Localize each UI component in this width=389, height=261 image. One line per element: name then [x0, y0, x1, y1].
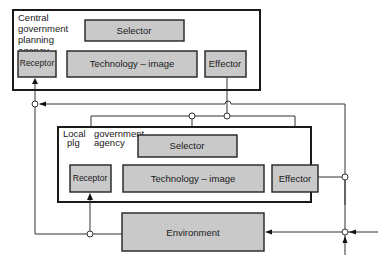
upper-feedback-line [40, 101, 345, 104]
arrow-left-icon [349, 230, 356, 235]
junction-node [32, 101, 38, 107]
local-agency-label-4: agency [94, 137, 125, 148]
local-agency-label-2: plg [67, 137, 80, 148]
central-technology-image-label: Technology – image [90, 58, 175, 69]
central-agency-label-3: planning [18, 34, 54, 45]
central-agency-label-2: government [18, 23, 69, 34]
central-effector-label: Effector [209, 58, 242, 69]
local-effector-label: Effector [279, 173, 312, 184]
systems-diagram: Central government planning agency Selec… [0, 0, 389, 261]
arrow-up-icon [343, 236, 348, 243]
junction-node [342, 229, 348, 235]
arrow-left-icon [39, 102, 46, 107]
junction-node [224, 113, 230, 119]
junction-node [342, 174, 348, 180]
junction-node [87, 231, 93, 237]
central-receptor-label: Receptor [20, 58, 55, 68]
junction-node [189, 113, 195, 119]
environment-label: Environment [166, 227, 220, 238]
local-selector-label: Selector [170, 140, 205, 151]
central-selector-label: Selector [117, 25, 152, 36]
local-technology-image-label: Technology – image [151, 173, 236, 184]
local-receptor-label: Receptor [73, 173, 108, 183]
arrow-left-icon [265, 230, 272, 235]
central-agency-label-1: Central [18, 12, 49, 23]
